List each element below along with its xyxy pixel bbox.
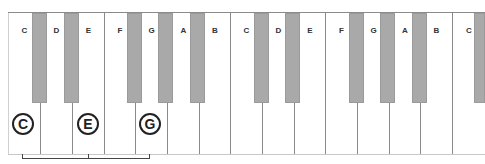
- black-key-c-sharp-1[interactable]: [32, 13, 47, 103]
- piano-keyboard: C D E F G A B C D E F G A B C: [8, 12, 485, 155]
- black-key-g-sharp-1[interactable]: [158, 13, 173, 103]
- chord-bracket: [22, 154, 150, 159]
- black-key-c-sharp-2[interactable]: [254, 13, 269, 103]
- black-key-a-sharp-2[interactable]: [412, 13, 427, 103]
- black-key-a-sharp-1[interactable]: [190, 13, 205, 103]
- highlight-c-circle: C: [12, 113, 34, 135]
- highlight-e-circle: E: [77, 113, 99, 135]
- black-key-g-sharp-2[interactable]: [380, 13, 395, 103]
- black-key-f-sharp-1[interactable]: [127, 13, 142, 103]
- highlight-g-circle: G: [139, 113, 161, 135]
- black-key-d-sharp-2[interactable]: [285, 13, 300, 103]
- black-key-f-sharp-2[interactable]: [349, 13, 364, 103]
- black-key-c-sharp-3[interactable]: [474, 13, 485, 103]
- chord-bracket-center-tick: [88, 154, 89, 159]
- black-key-d-sharp-1[interactable]: [64, 13, 79, 103]
